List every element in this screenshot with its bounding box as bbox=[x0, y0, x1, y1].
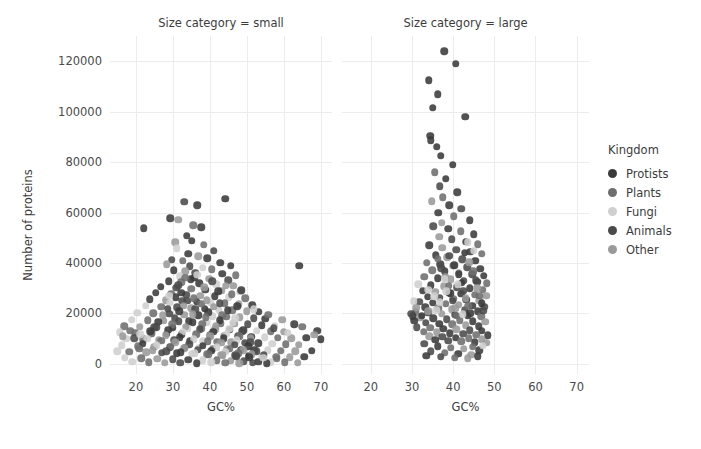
x-axis-tick-label: 20 bbox=[363, 380, 378, 394]
scatter-point bbox=[475, 292, 483, 300]
scatter-point bbox=[446, 252, 454, 260]
x-axis-title-large: GC% bbox=[342, 400, 589, 414]
legend-swatch-icon bbox=[608, 226, 617, 235]
scatter-point bbox=[430, 293, 438, 301]
scatter-point bbox=[114, 347, 122, 355]
gridline-horizontal bbox=[342, 213, 589, 214]
scatter-point bbox=[407, 310, 415, 318]
scatter-point bbox=[453, 246, 461, 254]
scatter-point bbox=[178, 289, 186, 297]
scatter-point bbox=[167, 214, 175, 222]
y-axis-tick-label: 80000 bbox=[65, 155, 102, 169]
scatter-point bbox=[235, 359, 243, 367]
scatter-point bbox=[150, 310, 158, 318]
scatter-point bbox=[436, 182, 444, 190]
legend-item[interactable]: Other bbox=[608, 240, 696, 259]
x-axis-tick-label: 60 bbox=[528, 380, 543, 394]
x-axis-tick-label: 60 bbox=[277, 380, 292, 394]
scatter-point bbox=[149, 346, 157, 354]
scatter-point bbox=[435, 209, 443, 217]
scatter-point bbox=[134, 309, 142, 317]
scatter-point bbox=[462, 295, 470, 303]
scatter-point bbox=[434, 90, 442, 98]
scatter-point bbox=[204, 254, 212, 262]
scatter-point bbox=[469, 343, 477, 351]
scatter-point bbox=[427, 137, 435, 145]
legend-item[interactable]: Fungi bbox=[608, 202, 696, 221]
scatter-point bbox=[169, 355, 177, 363]
gridline-vertical bbox=[535, 36, 536, 374]
gridline-vertical bbox=[494, 36, 495, 374]
scatter-point bbox=[425, 76, 433, 84]
scatter-point bbox=[461, 113, 469, 121]
scatter-point bbox=[208, 265, 216, 273]
scatter-point bbox=[199, 264, 207, 272]
legend-item[interactable]: Animals bbox=[608, 221, 696, 240]
scatter-point bbox=[216, 299, 224, 307]
scatter-point bbox=[201, 283, 209, 291]
scatter-point bbox=[194, 202, 202, 210]
scatter-point bbox=[466, 310, 474, 318]
scatter-point bbox=[179, 257, 187, 265]
scatter-point bbox=[177, 359, 185, 367]
scatter-point bbox=[433, 143, 441, 151]
scatter-point bbox=[436, 298, 444, 306]
scatter-point bbox=[465, 258, 473, 266]
scatter-point bbox=[445, 201, 453, 209]
scatter-point bbox=[308, 347, 316, 355]
y-axis-tick-label: 20000 bbox=[65, 306, 102, 320]
scatter-point bbox=[138, 354, 146, 362]
scatter-point bbox=[451, 305, 459, 313]
scatter-point bbox=[465, 302, 473, 310]
scatter-point bbox=[474, 284, 482, 292]
scatter-point bbox=[140, 224, 148, 232]
facet-title-large: Size category = large bbox=[342, 16, 589, 30]
scatter-point bbox=[423, 352, 431, 360]
scatter-point bbox=[452, 60, 460, 68]
scatter-point bbox=[449, 161, 457, 169]
scatter-point bbox=[437, 353, 445, 361]
scatter-point bbox=[284, 329, 292, 337]
scatter-point bbox=[217, 259, 225, 267]
scatter-point bbox=[278, 316, 286, 324]
scatter-point bbox=[426, 242, 434, 250]
scatter-point bbox=[428, 197, 436, 205]
scatter-point bbox=[455, 270, 463, 278]
scatter-point bbox=[411, 317, 419, 325]
scatter-point bbox=[479, 307, 487, 315]
scatter-point bbox=[185, 356, 193, 364]
chart-root: Number of proteins 020000400006000080000… bbox=[0, 0, 701, 449]
scatter-point bbox=[270, 325, 278, 333]
scatter-point bbox=[474, 353, 482, 361]
gridline-horizontal bbox=[110, 213, 332, 214]
scatter-point bbox=[193, 359, 201, 367]
legend-item[interactable]: Protists bbox=[608, 164, 696, 183]
scatter-point bbox=[428, 266, 436, 274]
scatter-point bbox=[423, 259, 431, 267]
scatter-point bbox=[451, 261, 459, 269]
scatter-point bbox=[144, 316, 152, 324]
scatter-point bbox=[479, 342, 487, 350]
scatter-point bbox=[464, 239, 472, 247]
y-axis-tick-label: 60000 bbox=[65, 206, 102, 220]
legend-label: Protists bbox=[626, 167, 668, 181]
scatter-point bbox=[250, 306, 258, 314]
x-axis-tick-label: 50 bbox=[487, 380, 502, 394]
scatter-point bbox=[191, 350, 199, 358]
scatter-point bbox=[460, 287, 468, 295]
scatter-point bbox=[466, 216, 474, 224]
gridline-horizontal bbox=[110, 112, 332, 113]
scatter-point bbox=[165, 292, 173, 300]
scatter-point bbox=[448, 235, 456, 243]
gridline-vertical bbox=[321, 36, 322, 374]
legend-item[interactable]: Plants bbox=[608, 183, 696, 202]
scatter-point bbox=[152, 289, 160, 297]
scatter-point bbox=[238, 286, 246, 294]
scatter-point bbox=[222, 195, 230, 203]
scatter-panel-large bbox=[342, 36, 589, 374]
x-axis-tick-label: 40 bbox=[446, 380, 461, 394]
scatter-point bbox=[243, 307, 251, 315]
scatter-point bbox=[449, 297, 457, 305]
x-axis-title-small: GC% bbox=[110, 400, 332, 414]
scatter-point bbox=[190, 294, 198, 302]
